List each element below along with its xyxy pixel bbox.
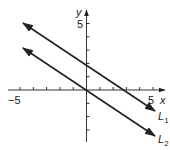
- line-l1: [23, 23, 155, 111]
- y-tick-label-5: 5: [77, 18, 83, 30]
- coordinate-plane: y 5 −5 5 x L1 L2: [0, 0, 170, 150]
- legend-l2-sub: 2: [164, 139, 169, 148]
- y-axis-label: y: [75, 6, 83, 18]
- legend-l2: L2: [158, 133, 169, 148]
- x-axis-label: x: [159, 94, 166, 106]
- legend-l1-sub: 1: [164, 116, 169, 125]
- legend-l1: L1: [158, 110, 169, 125]
- line-l2: [23, 48, 155, 136]
- x-tick-label-5: 5: [148, 94, 154, 106]
- x-tick-label-neg5: −5: [8, 94, 21, 106]
